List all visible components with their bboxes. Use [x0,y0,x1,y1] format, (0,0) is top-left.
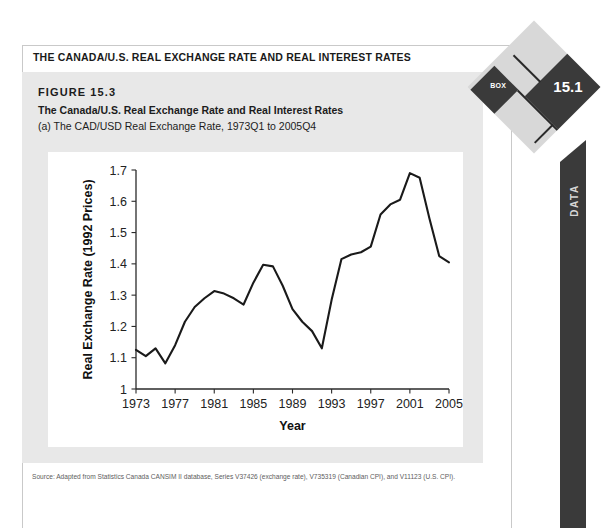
badge-box-word-label: BOX [481,82,515,89]
svg-text:1997: 1997 [357,397,385,411]
figure-number: FIGURE 15.3 [38,86,116,98]
svg-text:1.5: 1.5 [110,226,127,240]
svg-text:Real Exchange Rate (1992 Price: Real Exchange Rate (1992 Prices) [81,179,95,379]
figure-panel: FIGURE 15.3 The Canada/U.S. Real Exchang… [22,72,483,463]
svg-text:1: 1 [120,383,127,397]
svg-text:Year: Year [279,419,306,433]
chart-plot-area: 11.11.21.31.41.51.61.7197319771981198519… [48,152,463,447]
svg-text:1981: 1981 [200,397,228,411]
svg-text:1973: 1973 [122,397,150,411]
data-side-tab: DATA [560,140,586,528]
data-side-tab-label: DATA [569,171,580,231]
figure-title: The Canada/U.S. Real Exchange Rate and R… [38,104,343,116]
svg-text:2005: 2005 [435,397,463,411]
svg-text:1993: 1993 [318,397,346,411]
line-chart: 11.11.21.31.41.51.61.7197319771981198519… [48,152,463,447]
box-header: THE CANADA/U.S. REAL EXCHANGE RATE AND R… [23,46,511,73]
figure-subtitle: (a) The CAD/USD Real Exchange Rate, 1973… [38,120,316,132]
source-note: Source: Adapted from Statistics Canada C… [32,472,472,483]
svg-text:1977: 1977 [161,397,189,411]
svg-text:1.1: 1.1 [110,351,127,365]
tab-corner-notch [560,140,586,162]
box-header-title: THE CANADA/U.S. REAL EXCHANGE RATE AND R… [33,51,411,63]
svg-text:1.4: 1.4 [110,257,127,271]
svg-text:1989: 1989 [279,397,307,411]
svg-text:1985: 1985 [239,397,267,411]
svg-text:2001: 2001 [396,397,424,411]
svg-text:1.2: 1.2 [110,320,127,334]
svg-text:1.6: 1.6 [110,195,127,209]
svg-text:1.3: 1.3 [110,289,127,303]
badge-number-label: 15.1 [544,78,591,95]
svg-text:1.7: 1.7 [110,164,127,178]
